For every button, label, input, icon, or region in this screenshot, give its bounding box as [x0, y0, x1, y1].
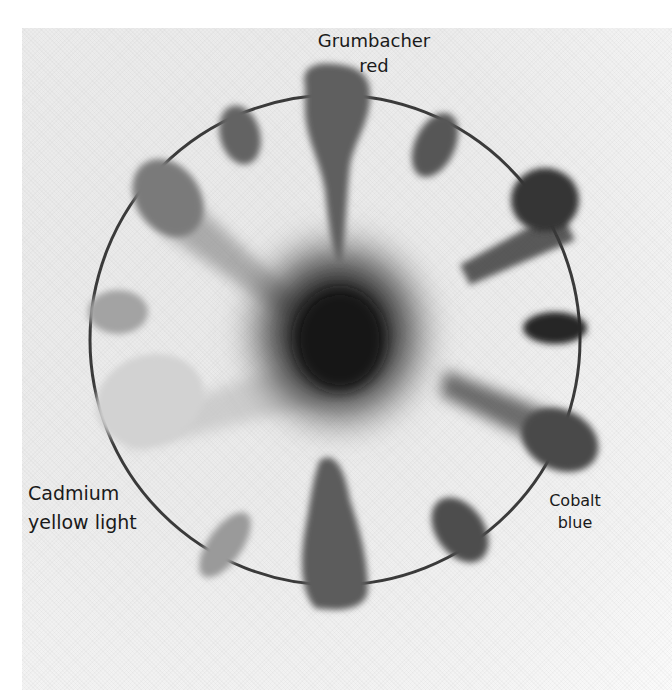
- label-cadmium-yellow-line1: Cadmium: [28, 479, 198, 508]
- label-grumbacher-red: Grumbacher red: [300, 28, 448, 78]
- label-cadmium-yellow-light: Cadmium yellow light: [28, 479, 198, 537]
- swatch-top-left-2: [213, 101, 267, 169]
- label-cobalt-blue-line2: blue: [530, 512, 620, 534]
- label-cobalt-blue: Cobalt blue: [530, 490, 620, 534]
- label-cobalt-blue-line1: Cobalt: [530, 490, 620, 512]
- swatch-right: [523, 312, 587, 344]
- color-wheel: [0, 0, 672, 690]
- center-core: [296, 290, 384, 390]
- swatch-top-right-2: [511, 168, 579, 232]
- swatch-left: [88, 290, 148, 334]
- label-cadmium-yellow-line2: yellow light: [28, 508, 198, 537]
- swatch-top-right-1: [403, 106, 468, 185]
- label-grumbacher-red-line1: Grumbacher: [300, 28, 448, 53]
- label-grumbacher-red-line2: red: [300, 53, 448, 78]
- swatch-bottom: [302, 457, 368, 609]
- swatch-cadmium-yellow-light: [83, 339, 217, 461]
